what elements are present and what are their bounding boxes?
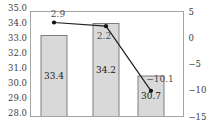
right-axis-tick-label: −5 [189,59,202,69]
line-value-label: 2.9 [51,9,66,19]
bar-value-label: 34.2 [96,65,116,75]
left-axis-tick-label: 33.0 [8,33,27,43]
combo-chart: 35.034.033.032.031.030.029.028.050−5−10−… [0,0,208,127]
right-axis-tick-label: −15 [189,112,207,122]
bar-value-label: 33.4 [44,71,64,81]
left-axis-tick-label: 29.0 [8,93,27,103]
line-point-marker [52,20,56,24]
line-value-label: 2.2 [97,31,111,41]
right-axis-tick-label: −10 [189,85,207,95]
left-axis-tick-label: 34.0 [8,18,27,28]
left-axis-tick-label: 35.0 [8,3,27,13]
right-axis-tick-label: 0 [189,33,194,43]
left-axis-tick-label: 28.0 [8,108,27,118]
left-axis-tick-label: 30.0 [8,78,27,88]
line-point-marker [104,24,108,28]
left-axis-tick-label: 31.0 [8,63,27,73]
right-axis-tick-label: 5 [189,7,194,17]
combo-chart-canvas: 35.034.033.032.031.030.029.028.050−5−10−… [0,0,208,127]
bar-value-label: 30.7 [141,91,161,101]
left-axis-tick-label: 32.0 [8,48,27,58]
line-value-label: −10.1 [146,74,174,84]
